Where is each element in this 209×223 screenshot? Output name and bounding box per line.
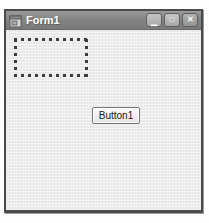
form-client-area: Button1: [6, 30, 201, 210]
maximize-button[interactable]: □: [164, 13, 180, 27]
selection-marquee: [14, 38, 88, 77]
titlebar[interactable]: Form1 ▁ □ ✕: [6, 11, 201, 30]
minimize-icon: ▁: [151, 18, 157, 26]
close-button[interactable]: ✕: [182, 13, 198, 27]
window-title: Form1: [26, 11, 146, 29]
button1[interactable]: Button1: [92, 107, 140, 124]
page-background: Form1 ▁ □ ✕ Button1: [0, 0, 209, 223]
form1-window: Form1 ▁ □ ✕ Button1: [4, 9, 203, 213]
maximize-icon: □: [170, 16, 175, 24]
minimize-button[interactable]: ▁: [146, 13, 162, 27]
form-icon: [9, 14, 22, 27]
close-icon: ✕: [187, 16, 194, 24]
caption-buttons: ▁ □ ✕: [146, 13, 198, 27]
